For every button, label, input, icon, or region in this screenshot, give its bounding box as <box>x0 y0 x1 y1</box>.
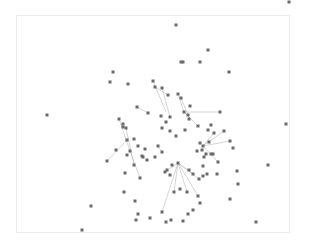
graph-node[interactable] <box>182 220 185 223</box>
graph-node[interactable] <box>236 170 239 173</box>
graph-node[interactable] <box>217 161 220 164</box>
graph-node[interactable] <box>237 183 240 186</box>
graph-node[interactable] <box>202 165 205 168</box>
graph-node[interactable] <box>129 150 132 153</box>
graph-node[interactable] <box>188 118 191 121</box>
graph-node[interactable] <box>184 129 187 132</box>
graph-node[interactable] <box>126 139 129 142</box>
graph-node[interactable] <box>182 61 185 64</box>
graph-node[interactable] <box>202 145 205 148</box>
graph-node[interactable] <box>146 159 149 162</box>
graph-node[interactable] <box>46 114 49 117</box>
graph-node[interactable] <box>169 116 172 119</box>
graph-node[interactable] <box>228 71 231 74</box>
graph-node[interactable] <box>124 172 127 175</box>
graph-node[interactable] <box>219 111 222 114</box>
graph-node[interactable] <box>126 154 129 157</box>
graph-node[interactable] <box>199 202 202 205</box>
graph-node[interactable] <box>161 87 164 90</box>
graph-node[interactable] <box>169 174 172 177</box>
graph-node[interactable] <box>115 149 118 152</box>
graph-node[interactable] <box>161 127 164 130</box>
graph-node[interactable] <box>196 150 199 153</box>
graph-node[interactable] <box>203 156 206 159</box>
graph-node[interactable] <box>169 130 172 133</box>
graph-node[interactable] <box>149 217 152 220</box>
graph-node[interactable] <box>197 125 200 128</box>
graph-node[interactable] <box>165 221 168 224</box>
graph-node[interactable] <box>152 80 155 83</box>
graph-node[interactable] <box>134 200 137 203</box>
graph-node[interactable] <box>229 198 232 201</box>
graph-node[interactable] <box>81 229 84 232</box>
graph-node[interactable] <box>118 118 121 121</box>
graph-node[interactable] <box>137 145 140 148</box>
graph-node[interactable] <box>106 160 109 163</box>
graph-node[interactable] <box>147 112 150 115</box>
graph-node[interactable] <box>133 164 136 167</box>
graph-node[interactable] <box>267 164 270 167</box>
graph-node[interactable] <box>198 178 201 181</box>
graph-node[interactable] <box>288 1 291 4</box>
graph-node[interactable] <box>133 138 136 141</box>
graph-node[interactable] <box>170 219 173 222</box>
graph-node[interactable] <box>137 213 140 216</box>
graph-node[interactable] <box>187 114 190 117</box>
graph-node[interactable] <box>186 191 189 194</box>
graph-node[interactable] <box>205 153 208 156</box>
graph-node[interactable] <box>187 213 190 216</box>
graph-node[interactable] <box>109 81 112 84</box>
graph-node[interactable] <box>223 130 226 133</box>
graph-node[interactable] <box>192 209 195 212</box>
graph-node[interactable] <box>199 61 202 64</box>
graph-node[interactable] <box>192 173 195 176</box>
graph-node[interactable] <box>142 156 145 159</box>
graph-node[interactable] <box>202 175 205 178</box>
graph-node[interactable] <box>207 49 210 52</box>
graph-node[interactable] <box>90 205 93 208</box>
graph-node[interactable] <box>229 140 232 143</box>
graph-node[interactable] <box>183 111 186 114</box>
graph-node[interactable] <box>232 147 235 150</box>
graph-node[interactable] <box>144 148 147 151</box>
graph-node[interactable] <box>154 156 157 159</box>
graph-node[interactable] <box>136 106 139 109</box>
graph-node[interactable] <box>216 173 219 176</box>
graph-node[interactable] <box>207 129 210 132</box>
graph-node[interactable] <box>206 173 209 176</box>
graph-node[interactable] <box>188 169 191 172</box>
graph-node[interactable] <box>123 191 126 194</box>
graph-node[interactable] <box>189 105 192 108</box>
graph-node[interactable] <box>180 97 183 100</box>
graph-node[interactable] <box>177 162 180 165</box>
graph-node[interactable] <box>160 115 163 118</box>
graph-node[interactable] <box>154 86 157 89</box>
graph-node[interactable] <box>139 177 142 180</box>
graph-node[interactable] <box>208 141 211 144</box>
graph-node[interactable] <box>161 211 164 214</box>
graph-node[interactable] <box>201 149 204 152</box>
graph-node[interactable] <box>135 219 138 222</box>
graph-node[interactable] <box>175 135 178 138</box>
graph-node[interactable] <box>255 221 258 224</box>
graph-node[interactable] <box>125 127 128 130</box>
graph-node[interactable] <box>112 71 115 74</box>
graph-node[interactable] <box>213 132 216 135</box>
graph-node[interactable] <box>210 124 213 127</box>
graph-node[interactable] <box>127 83 130 86</box>
graph-node[interactable] <box>161 151 164 154</box>
graph-node[interactable] <box>157 145 160 148</box>
graph-node[interactable] <box>197 195 200 198</box>
graph-node[interactable] <box>167 94 170 97</box>
graph-node[interactable] <box>177 93 180 96</box>
graph-node[interactable] <box>199 142 202 145</box>
graph-node[interactable] <box>212 153 215 156</box>
graph-node[interactable] <box>122 123 125 126</box>
graph-node[interactable] <box>173 191 176 194</box>
graph-node[interactable] <box>285 123 288 126</box>
graph-node[interactable] <box>179 188 182 191</box>
graph-node[interactable] <box>175 24 178 27</box>
graph-node[interactable] <box>165 121 168 124</box>
graph-node[interactable] <box>122 126 125 129</box>
graph-node[interactable] <box>171 164 174 167</box>
